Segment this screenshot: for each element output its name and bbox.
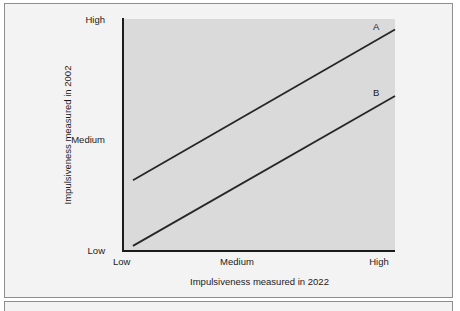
series-line-b xyxy=(133,96,395,246)
y-axis-tick-low: Low xyxy=(88,246,105,256)
series-line-a xyxy=(133,29,395,180)
x-axis-line xyxy=(122,250,395,252)
x-axis-tick-high: High xyxy=(369,257,389,267)
x-axis-tick-medium: Medium xyxy=(220,257,254,267)
plot-area xyxy=(124,19,395,251)
x-axis-tick-low: Low xyxy=(113,257,130,267)
x-axis-title: Impulsiveness measured in 2022 xyxy=(124,277,395,287)
y-axis-line xyxy=(122,18,124,252)
y-axis-tick-medium: Medium xyxy=(71,135,105,145)
y-axis-tick-high: High xyxy=(85,15,105,25)
figure-panel: High Medium Low Low Medium High Impulsiv… xyxy=(4,3,453,298)
y-axis-title: Impulsiveness measured in 2002 xyxy=(61,19,75,251)
series-lines-group xyxy=(124,19,395,251)
figure-panel-below xyxy=(4,301,453,311)
series-label-b: B xyxy=(373,88,379,98)
series-label-a: A xyxy=(373,22,379,32)
figure-root: High Medium Low Low Medium High Impulsiv… xyxy=(0,0,460,311)
